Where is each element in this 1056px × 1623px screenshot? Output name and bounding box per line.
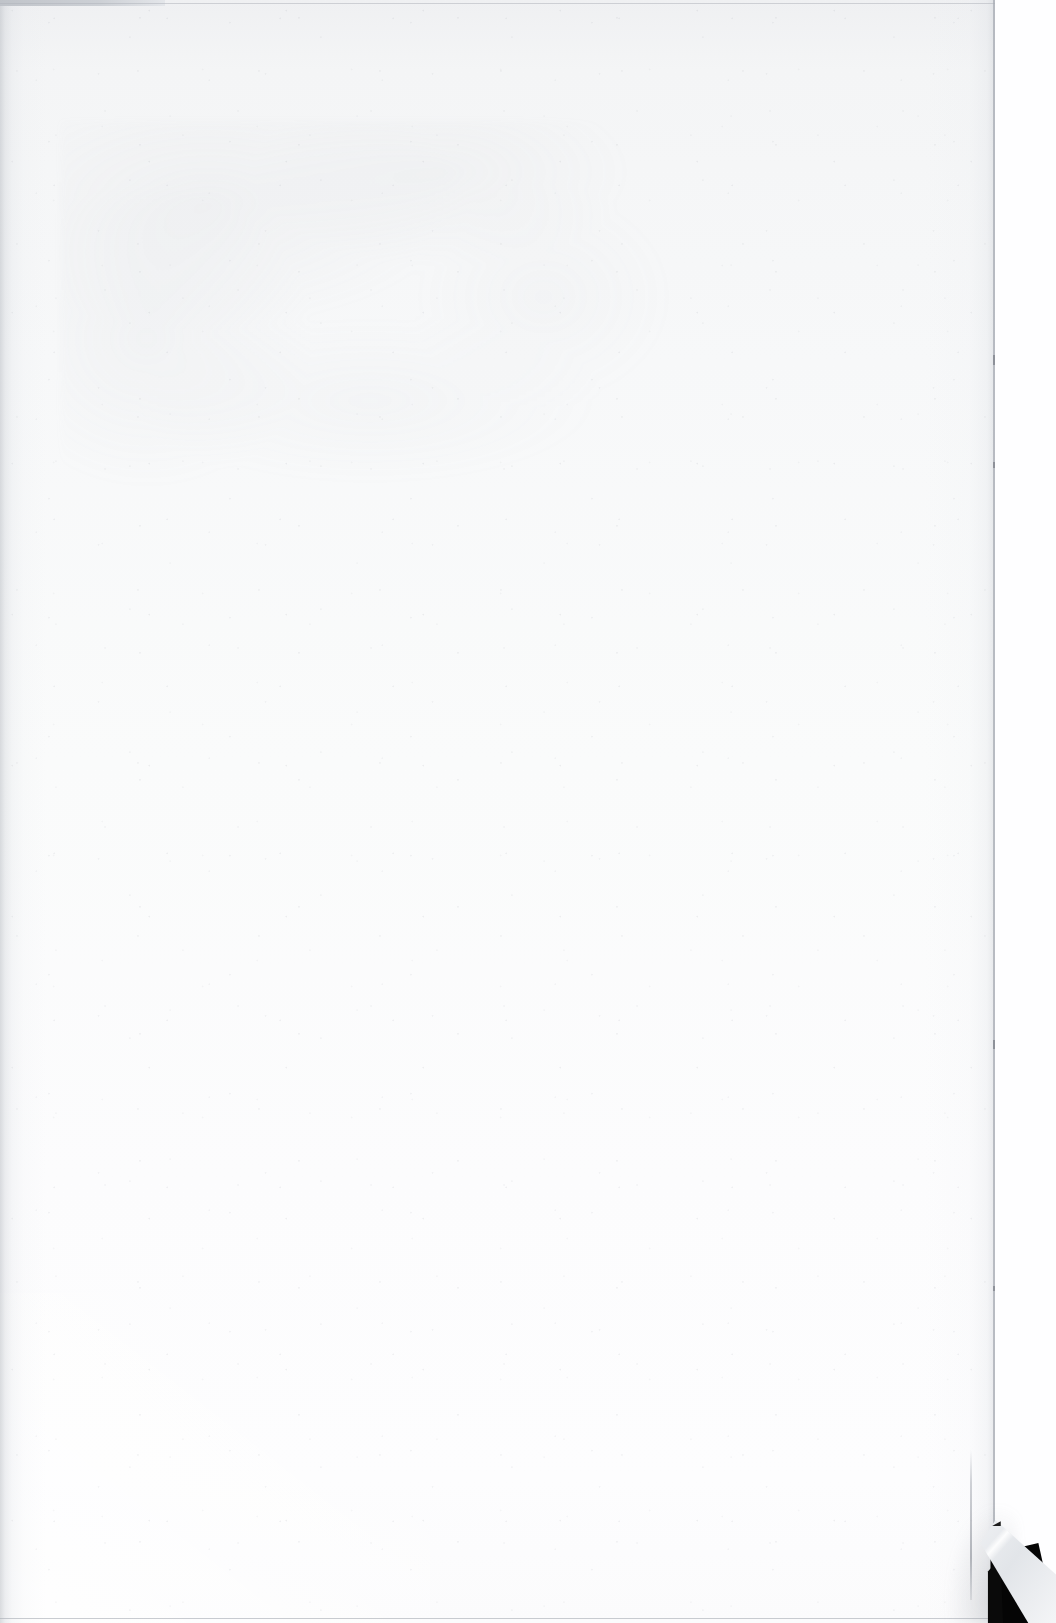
- scanned-page-canvas: [0, 0, 1056, 1623]
- binding-gutter-shadow: [0, 0, 46, 1623]
- page-edge-shading: [925, 0, 995, 1623]
- page-bottom-edge-rule: [0, 1618, 995, 1619]
- page-edge-nick: [993, 462, 995, 468]
- paper-score-line: [970, 1450, 972, 1600]
- folded-corner-dog-ear: [930, 1480, 1056, 1623]
- paper-sheet: [0, 0, 995, 1623]
- page-right-edge-rule: [993, 0, 995, 1623]
- paper-grain-texture: [0, 0, 995, 1623]
- page-edge-nick: [993, 355, 995, 365]
- page-edge-nick: [993, 1286, 995, 1291]
- page-top-edge-rule: [0, 3, 995, 4]
- page-edge-nick: [993, 1040, 995, 1049]
